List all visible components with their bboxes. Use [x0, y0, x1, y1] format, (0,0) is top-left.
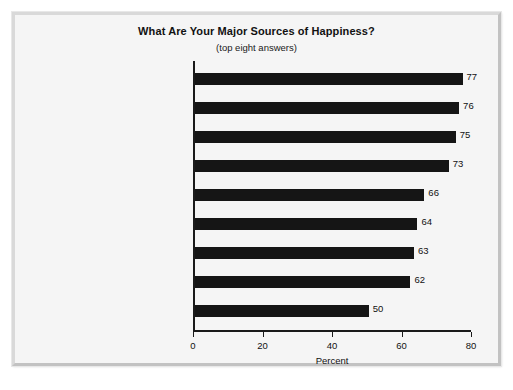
- bar-row: 77: [193, 69, 471, 89]
- bar[interactable]: [195, 131, 456, 143]
- bar-value-label: 75: [460, 129, 471, 140]
- figure-background: What Are Your Major Sources of Happiness…: [15, 15, 498, 363]
- x-axis-tick-label: 40: [327, 340, 338, 351]
- bar-row: 73: [193, 156, 471, 176]
- bar-value-label: 66: [428, 187, 439, 198]
- bar-row: 76: [193, 98, 471, 118]
- bar[interactable]: [195, 189, 424, 201]
- figure-frame: What Are Your Major Sources of Happiness…: [12, 12, 501, 366]
- x-axis-tick: [332, 332, 333, 337]
- x-axis-tick-label: 60: [396, 340, 407, 351]
- bar[interactable]: [195, 276, 410, 288]
- bar-row: 63: [193, 243, 471, 263]
- bar[interactable]: [195, 247, 414, 259]
- chart-title: What Are Your Major Sources of Happiness…: [15, 25, 498, 37]
- bar-row: 64: [193, 214, 471, 234]
- bar-value-label: 73: [453, 158, 464, 169]
- bar-value-label: 77: [467, 71, 478, 82]
- x-axis-title: Percent: [193, 355, 471, 366]
- bar-value-label: 76: [463, 100, 474, 111]
- bar[interactable]: [195, 218, 417, 230]
- x-axis-tick: [471, 332, 472, 337]
- x-axis-tick-label: 80: [466, 340, 477, 351]
- x-axis-tick-label: 0: [190, 340, 195, 351]
- x-axis-tick: [402, 332, 403, 337]
- bar[interactable]: [195, 102, 459, 114]
- bar-value-label: 64: [421, 216, 432, 227]
- chart-subtitle: (top eight answers): [15, 42, 498, 53]
- plot-area: 777675736664636250 020406080 Percent You…: [193, 67, 471, 332]
- bar-row: 50: [193, 301, 471, 321]
- bar[interactable]: [195, 305, 369, 317]
- x-axis-tick: [263, 332, 264, 337]
- bar-value-label: 62: [414, 274, 425, 285]
- x-axis-tick: [193, 332, 194, 337]
- bar-row: 62: [193, 272, 471, 292]
- bar[interactable]: [195, 73, 463, 85]
- bar-value-label: 63: [418, 245, 429, 256]
- bar-row: 75: [193, 127, 471, 147]
- bar[interactable]: [195, 160, 449, 172]
- x-axis-tick-label: 20: [257, 340, 268, 351]
- bar-value-label: 50: [373, 303, 384, 314]
- bar-row: 66: [193, 185, 471, 205]
